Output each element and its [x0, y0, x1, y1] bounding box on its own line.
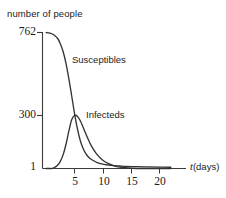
x-axis-title: t(days) [190, 161, 219, 172]
infecteds-curve [46, 115, 171, 168]
x-tick-label-5: 5 [66, 175, 84, 187]
y-tick-label-762: 762 [6, 25, 36, 37]
infecteds-label: Infecteds [86, 109, 125, 120]
x-tick-label-10: 10 [94, 175, 114, 187]
y-tick-label-300: 300 [6, 108, 36, 120]
series-group [46, 33, 171, 169]
x-tick-label-20: 20 [150, 175, 170, 187]
y-tick-label-1: 1 [6, 160, 36, 172]
susceptibles-label: Susceptibles [72, 54, 126, 65]
x-tick-label-15: 15 [122, 175, 142, 187]
chart-figure: number of people 762 300 1 5 10 15 20 Su… [0, 0, 226, 198]
x-axis-unit: (days) [193, 161, 219, 172]
